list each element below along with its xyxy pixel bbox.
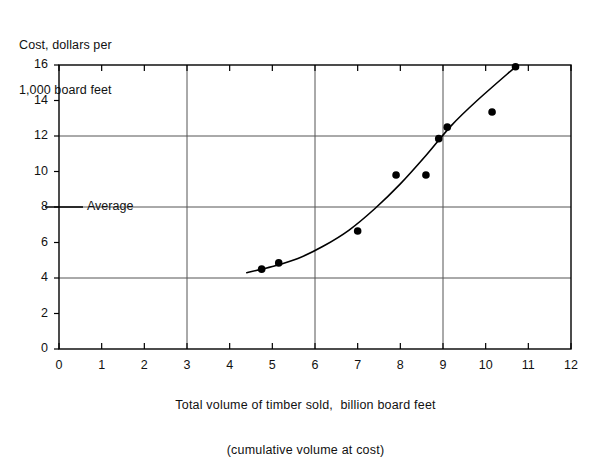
- x-tick-label: 5: [260, 358, 284, 372]
- x-tick-label: 4: [218, 358, 242, 372]
- data-point: [354, 227, 362, 235]
- x-tick-label: 8: [388, 358, 412, 372]
- data-point: [443, 123, 451, 131]
- x-axis-title: Total volume of timber sold, billion boa…: [0, 368, 611, 461]
- x-axis-title-line2: (cumulative volume at cost): [0, 443, 611, 458]
- y-tick-label: 0: [24, 341, 48, 355]
- fit-curve: [247, 67, 516, 273]
- x-tick-label: 3: [175, 358, 199, 372]
- y-tick-label: 10: [24, 164, 48, 178]
- x-tick-label: 7: [346, 358, 370, 372]
- data-point: [435, 135, 443, 143]
- y-tick-label: 16: [24, 57, 48, 71]
- data-point: [258, 265, 266, 273]
- y-tick-label: 14: [24, 93, 48, 107]
- y-tick-label: 6: [24, 235, 48, 249]
- data-point: [392, 171, 400, 179]
- x-tick-label: 10: [474, 358, 498, 372]
- x-tick-label: 1: [90, 358, 114, 372]
- y-tick-label: 8: [24, 199, 48, 213]
- x-tick-label: 0: [47, 358, 71, 372]
- x-axis-title-line1: Total volume of timber sold, billion boa…: [0, 398, 611, 413]
- x-tick-label: 9: [431, 358, 455, 372]
- data-point: [512, 63, 520, 71]
- y-tick-label: 12: [24, 128, 48, 142]
- x-tick-label: 12: [559, 358, 583, 372]
- x-tick-label: 11: [516, 358, 540, 372]
- average-annotation-label: Average: [87, 199, 133, 213]
- y-tick-label: 2: [24, 306, 48, 320]
- data-point: [488, 108, 496, 116]
- x-tick-label: 6: [303, 358, 327, 372]
- data-point: [275, 259, 283, 267]
- y-tick-label: 4: [24, 270, 48, 284]
- data-point: [422, 171, 430, 179]
- x-tick-label: 2: [132, 358, 156, 372]
